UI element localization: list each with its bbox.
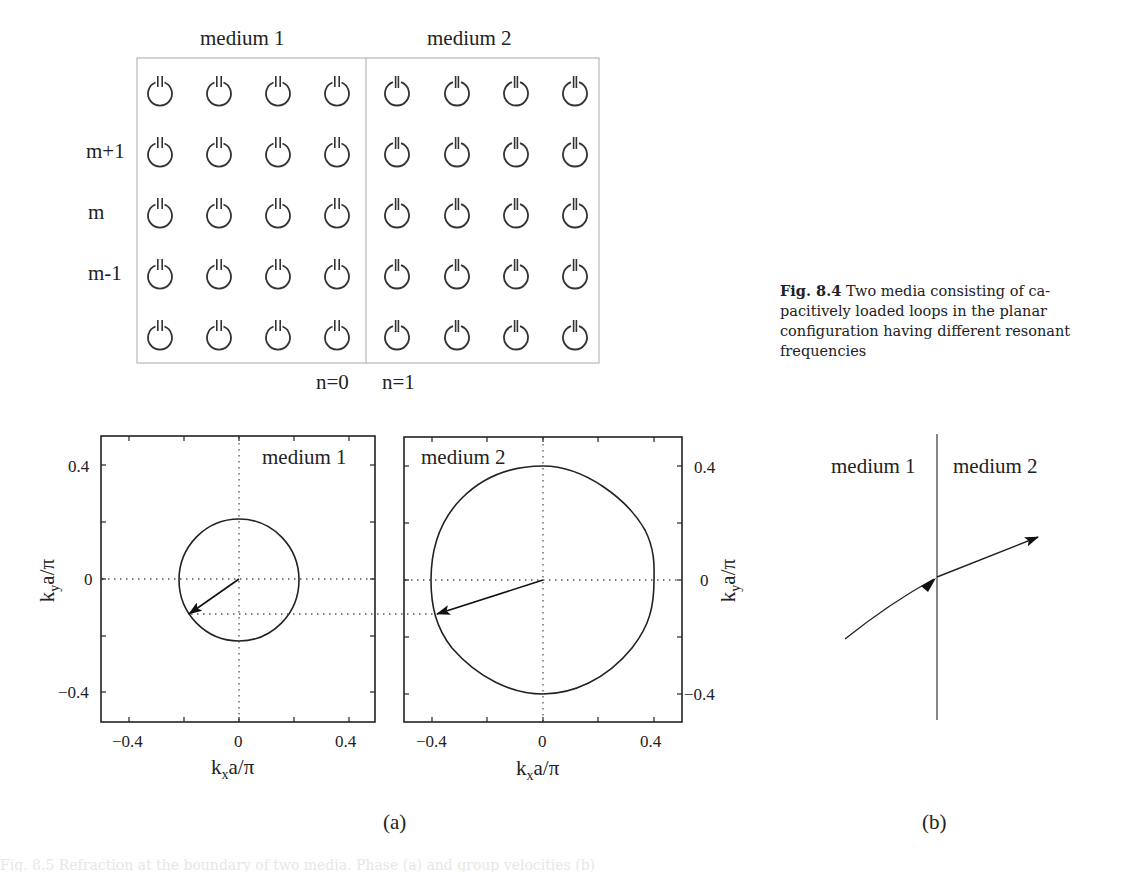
xtick-0.4: 0.4 [335, 733, 356, 750]
loop-icon [148, 259, 172, 289]
xlabel-medium-2: kxa/π [516, 758, 559, 779]
ytick-0.4-right: 0.4 [694, 459, 715, 476]
loop-icon [325, 137, 349, 167]
lattice-medium-2 [385, 76, 587, 350]
loop-icon [207, 320, 231, 350]
loop-icon [325, 259, 349, 289]
loop-icon [207, 137, 231, 167]
loop-icon [207, 259, 231, 289]
loop-icon [148, 76, 172, 106]
ytick-minus-0.4: −0.4 [58, 684, 89, 701]
refraction-label-medium-1: medium 1 [831, 456, 916, 477]
plot-title-medium-1: medium 1 [262, 447, 347, 468]
loop-icon [325, 76, 349, 106]
loop-icon [266, 76, 290, 106]
xtick-0.4-right: 0.4 [640, 733, 661, 750]
ylabel-medium-2: kya/π [718, 546, 739, 616]
ytick-0.4: 0.4 [68, 458, 89, 475]
xtick-minus-0.4-right: −0.4 [416, 733, 447, 750]
loop-icon [325, 198, 349, 228]
loop-icon [148, 198, 172, 228]
refracted-ray [937, 537, 1038, 577]
panel-label-a: (a) [383, 812, 406, 833]
plot-title-medium-2: medium 2 [421, 447, 506, 468]
incident-ray-arrowhead [921, 578, 936, 592]
panel-label-b: (b) [922, 812, 947, 833]
refraction-label-medium-2: medium 2 [953, 456, 1038, 477]
loop-icon [207, 76, 231, 106]
plot-medium-1 [101, 436, 375, 722]
plot-medium-2 [404, 437, 682, 722]
ylabel-medium-1: kya/π [37, 546, 58, 616]
loop-icon [266, 198, 290, 228]
loop-icon [266, 320, 290, 350]
lattice-medium-1 [148, 76, 349, 350]
xtick-0: 0 [234, 733, 243, 750]
loop-icon [325, 320, 349, 350]
wave-vector-arrow-medium-1 [189, 579, 239, 614]
wave-vector-arrow-medium-2 [437, 580, 543, 614]
ytick-0: 0 [84, 571, 93, 588]
xtick-minus-0.4: −0.4 [112, 733, 143, 750]
loop-icon [148, 137, 172, 167]
incident-ray [845, 579, 934, 639]
ytick-minus-0.4-right: −0.4 [684, 686, 715, 703]
xtick-0-right: 0 [538, 733, 547, 750]
loop-icon [148, 320, 172, 350]
cut-off-caption: Fig. 8.5 Refraction at the boundary of t… [0, 858, 1147, 872]
isofrequency-contour-medium-1 [179, 519, 299, 641]
loop-icon [266, 137, 290, 167]
loop-icon [266, 259, 290, 289]
lattice-box [137, 58, 599, 363]
xlabel-medium-1: kxa/π [211, 757, 254, 778]
loop-icon [207, 198, 231, 228]
ytick-0-right: 0 [700, 572, 709, 589]
